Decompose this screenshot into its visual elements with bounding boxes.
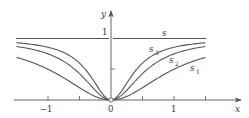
svg-text:2: 2: [175, 60, 179, 67]
label-s2: s 2: [169, 55, 179, 67]
label-s1: s 1: [190, 63, 200, 75]
x-tick-label-neg1: −1: [40, 104, 53, 114]
svg-text:3: 3: [155, 49, 159, 56]
label-s: s: [162, 28, 167, 38]
x-axis-label: x: [235, 104, 240, 114]
convergence-diagram: y x 1 −1 0 1 s s 3 s 2 s 1: [0, 0, 249, 118]
origin-open-point: [109, 98, 113, 102]
svg-text:s: s: [149, 44, 154, 54]
y-axis-label: y: [100, 9, 107, 19]
y-tick-label-1: 1: [102, 27, 107, 37]
svg-text:s: s: [190, 63, 195, 73]
origin-label: 0: [108, 104, 113, 114]
svg-text:s: s: [169, 55, 174, 65]
x-tick-label-1: 1: [171, 104, 176, 114]
svg-text:1: 1: [196, 68, 200, 75]
